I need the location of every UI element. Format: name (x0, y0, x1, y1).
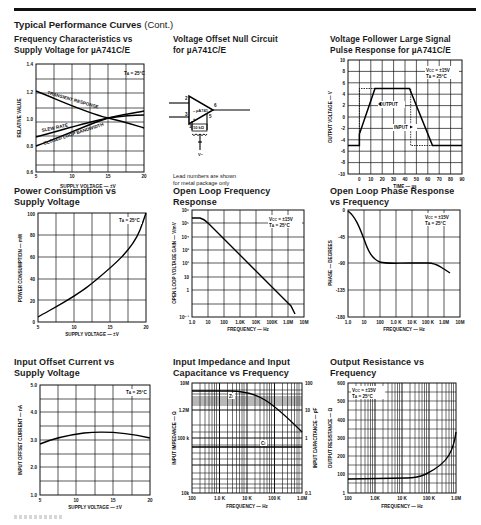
svg-text:300: 300 (337, 436, 345, 441)
svg-text:50: 50 (414, 177, 420, 182)
schematic-note: Lead numbers are shown for metal package… (173, 173, 236, 187)
panel-title-ioc: Input Offset Current vs Supply Voltage (14, 357, 114, 379)
svg-text:10: 10 (305, 408, 311, 413)
header-rule (14, 8, 476, 11)
title-line: Supply Voltage for µA741C/E (14, 45, 133, 56)
svg-text:-4: -4 (341, 138, 346, 143)
svg-text:10: 10 (71, 325, 77, 330)
footer-mark (14, 515, 62, 519)
svg-text:20: 20 (143, 325, 149, 330)
svg-text:VCC = ±15V: VCC = ±15V (269, 217, 294, 222)
svg-text:500: 500 (337, 399, 345, 404)
title-line: Capacitance vs Frequency (173, 368, 290, 379)
chart-freq-char: TRANSIENT RESPONSE SLEW RATE CLOSED LOOP… (14, 58, 154, 183)
svg-text:1: 1 (305, 436, 308, 441)
ylabel: INPUT OFFSET CURRENT — nA (18, 404, 23, 475)
svg-text:15: 15 (105, 174, 111, 179)
svg-text:1.0K: 1.0K (235, 320, 245, 325)
panel-title-olfr: Open Loop Frequency Response (173, 186, 270, 208)
svg-text:40: 40 (402, 177, 408, 182)
svg-text:5: 5 (37, 325, 40, 330)
svg-text:10: 10 (368, 177, 374, 182)
svg-text:TA = 25°C: TA = 25°C (269, 223, 290, 228)
svg-text:0: 0 (358, 177, 361, 182)
svg-text:80: 80 (30, 233, 36, 238)
svg-text:30: 30 (391, 177, 397, 182)
svg-text:1.0: 1.0 (31, 493, 38, 498)
offset-null-schematic: 23651 −+ µA741 10 kΩ V− (165, 90, 275, 170)
svg-text:20: 20 (147, 498, 153, 503)
svg-text:TA = 25°C: TA = 25°C (352, 394, 373, 399)
svg-text:-6: -6 (341, 149, 346, 154)
svg-text:10: 10 (184, 275, 190, 280)
svg-text:5.0: 5.0 (31, 383, 38, 388)
title-line: Supply Voltage (14, 368, 114, 379)
panel-title-power: Power Consumption vs Supply Voltage (14, 186, 116, 208)
svg-text:-8: -8 (341, 160, 346, 165)
svg-text:10⁵: 10⁵ (182, 221, 189, 226)
chart-power: TA = 25°C 100806040200 5101520 SUPPLY VO… (14, 210, 154, 335)
panel-title-zin: Input Impedance and Input Capacitance vs… (173, 357, 290, 379)
svg-text:15: 15 (110, 498, 116, 503)
svg-text:2: 2 (185, 96, 188, 101)
input-label: INPUT (394, 125, 408, 130)
svg-text:10: 10 (73, 498, 79, 503)
ylabel: PHASE — DEGREES (328, 240, 333, 285)
title-line: Supply Voltage (14, 197, 116, 208)
svg-text:60: 60 (425, 177, 431, 182)
svg-text:100: 100 (344, 496, 352, 501)
svg-text:100K: 100K (267, 320, 279, 325)
note-line: Lead numbers are shown (173, 173, 236, 180)
svg-text:10⁴: 10⁴ (182, 235, 190, 240)
ylabel: OUTPUT RESISTANCE — Ω (328, 408, 333, 469)
svg-text:5: 5 (209, 114, 212, 119)
svg-text:20: 20 (30, 299, 36, 304)
svg-text:1: 1 (186, 288, 189, 293)
svg-text:1.0 K: 1.0 K (391, 320, 403, 325)
svg-text:20: 20 (141, 174, 147, 179)
svg-text:100: 100 (376, 320, 384, 325)
supply-label: V− (198, 152, 204, 157)
svg-text:1.2: 1.2 (27, 90, 34, 95)
svg-text:1.0M: 1.0M (297, 496, 307, 501)
svg-text:10³: 10³ (182, 248, 189, 253)
svg-text:TA = 25°C: TA = 25°C (426, 74, 447, 79)
svg-text:100 K: 100 K (423, 496, 436, 501)
svg-text:-135: -135 (336, 288, 346, 293)
svg-text:400: 400 (337, 418, 345, 423)
chart-ioc: TA = 25°C 5.04.03.02.01.0 5101520 SUPPLY… (14, 382, 154, 512)
title-line: Voltage Follower Large Signal (330, 34, 451, 45)
ylabel: INPUT IMPEDANCE — Ω (172, 411, 177, 465)
svg-text:80: 80 (448, 177, 454, 182)
section-title-suffix: (Cont.) (144, 19, 173, 30)
svg-text:2: 2 (342, 103, 345, 108)
svg-text:10: 10 (361, 320, 367, 325)
chart-olfr: VCC = ±15V TA = 25°C 10⁶10⁵10⁴10³10²1011… (170, 207, 320, 337)
svg-text:ZI: ZI (229, 394, 233, 399)
pot-label: 10 kΩ (193, 125, 205, 130)
svg-text:10M: 10M (456, 320, 465, 325)
svg-text:0: 0 (342, 208, 345, 213)
svg-text:3.0: 3.0 (31, 438, 38, 443)
svg-text:-45: -45 (338, 235, 345, 240)
title-line: Pulse Response for µA741C/E (330, 45, 451, 56)
svg-text:VCC = ±15V: VCC = ±15V (425, 215, 450, 220)
ylabel: OUTPUT VOLTAGE — V (328, 90, 333, 143)
svg-text:1.0M: 1.0M (283, 320, 293, 325)
title-line: Frequency (330, 368, 424, 379)
svg-text:-90: -90 (338, 261, 345, 266)
svg-text:4.0: 4.0 (31, 410, 38, 415)
svg-text:TA = 25°C: TA = 25°C (126, 390, 147, 395)
section-title: Typical Performance Curves (Cont.) (14, 19, 173, 30)
ylabel2: INPUT CAPACITANCE — pF (313, 408, 318, 469)
title-line: Output Resistance vs (330, 357, 424, 368)
svg-text:VCC = ±15V: VCC = ±15V (352, 388, 377, 393)
svg-text:100 K: 100 K (422, 320, 435, 325)
title-line: Voltage Offset Null Circuit (173, 34, 278, 45)
svg-text:6: 6 (342, 81, 345, 86)
panel-title-offset-null: Voltage Offset Null Circuit for µA741C/E (173, 34, 278, 56)
svg-text:8: 8 (342, 69, 345, 74)
svg-text:100: 100 (27, 212, 35, 217)
svg-text:1.0: 1.0 (27, 117, 34, 122)
title-line: Open Loop Frequency (173, 186, 270, 197)
